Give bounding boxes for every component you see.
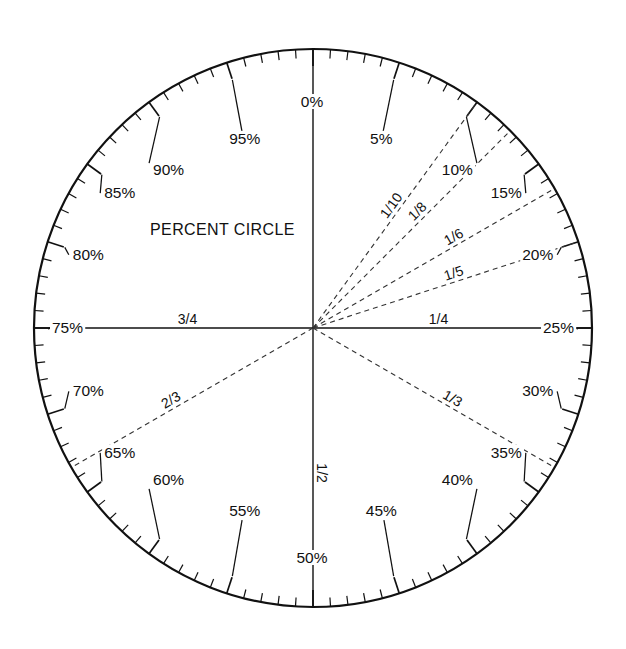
percent-label-60: 60% bbox=[153, 471, 184, 488]
percent-label-70: 70% bbox=[73, 382, 104, 399]
percent-label-65: 65% bbox=[104, 444, 135, 461]
percent-circle-svg: 0%5%10%15%20%25%30%35%40%45%50%55%60%65%… bbox=[0, 0, 626, 649]
percent-label-35: 35% bbox=[491, 444, 522, 461]
percent-label-55: 55% bbox=[229, 502, 260, 519]
percent-label-10: 10% bbox=[442, 161, 473, 178]
minor-tick bbox=[330, 597, 331, 606]
percent-label-25: 25% bbox=[543, 319, 574, 336]
percent-label-75: 75% bbox=[52, 319, 83, 336]
fraction-label-1-2: 1/2 bbox=[314, 463, 330, 483]
percent-label-90: 90% bbox=[153, 161, 184, 178]
minor-tick bbox=[582, 345, 591, 346]
percent-label-95: 95% bbox=[229, 130, 260, 147]
minor-tick bbox=[35, 345, 44, 346]
percent-label-50: 50% bbox=[296, 549, 327, 566]
percent-label-15: 15% bbox=[491, 184, 522, 201]
percent-label-80: 80% bbox=[73, 246, 104, 263]
percent-circle-figure: 0%5%10%15%20%25%30%35%40%45%50%55%60%65%… bbox=[0, 0, 626, 649]
percent-label-0: 0% bbox=[301, 93, 324, 110]
percent-label-5: 5% bbox=[370, 130, 393, 147]
minor-tick bbox=[295, 50, 296, 59]
page-title: PERCENT CIRCLE bbox=[150, 221, 295, 238]
percent-label-40: 40% bbox=[442, 471, 473, 488]
percent-label-85: 85% bbox=[104, 184, 135, 201]
minor-tick bbox=[582, 310, 591, 311]
fraction-label-3-4: 3/4 bbox=[178, 311, 198, 327]
percent-label-30: 30% bbox=[522, 382, 553, 399]
minor-tick bbox=[295, 597, 296, 606]
minor-tick bbox=[35, 310, 44, 311]
percent-label-20: 20% bbox=[522, 246, 553, 263]
percent-label-45: 45% bbox=[366, 502, 397, 519]
minor-tick bbox=[330, 50, 331, 59]
fraction-label-1-4: 1/4 bbox=[429, 311, 449, 327]
